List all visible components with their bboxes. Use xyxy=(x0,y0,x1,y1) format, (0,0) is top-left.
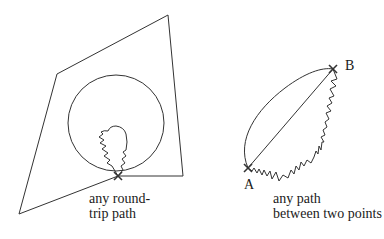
point-a-marker-icon xyxy=(244,164,252,172)
diagram-canvas xyxy=(0,0,384,239)
jagged-loop-path xyxy=(99,126,127,176)
point-b-label: B xyxy=(345,58,354,73)
right-caption-line2: between two points xyxy=(273,206,382,221)
curved-path xyxy=(244,69,333,168)
point-a-label: A xyxy=(244,177,254,192)
left-caption-line1: any round- xyxy=(89,191,150,206)
left-caption-line2: trip path xyxy=(89,206,136,221)
closed-polygon-path xyxy=(19,15,183,214)
circle-path xyxy=(68,75,164,171)
right-caption-line1: any path xyxy=(273,191,321,206)
jagged-path xyxy=(248,69,337,181)
